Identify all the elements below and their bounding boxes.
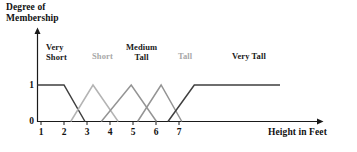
fuzzy-membership-chart: Degree of Membership: [0, 0, 357, 152]
series-label-tall-line-1: Tall: [178, 52, 192, 62]
series-very-tall: [168, 85, 280, 122]
series-short: [71, 85, 119, 122]
series-label-medium-tall-line-2: Tall: [126, 53, 157, 63]
x-tick-label-7: 7: [171, 127, 187, 137]
x-tick-label-6: 6: [148, 127, 164, 137]
x-tick-label-5: 5: [125, 127, 141, 137]
x-axis-title: Height in Feet: [268, 127, 327, 137]
y-tick-label-1: 1: [20, 80, 34, 90]
series-very-short: [38, 85, 86, 122]
series-label-short: Short: [92, 52, 113, 62]
series-label-very-tall: Very Tall: [232, 52, 266, 62]
x-tick-label-2: 2: [56, 127, 72, 137]
x-tick-label-4: 4: [102, 127, 118, 137]
x-tick-label-3: 3: [79, 127, 95, 137]
series-label-very-tall-line-1: Very Tall: [232, 52, 266, 62]
series-label-short-line-1: Short: [92, 52, 113, 62]
series-medium-tall: [101, 85, 156, 122]
series-label-tall: Tall: [178, 52, 192, 62]
series-label-very-short: Very Short: [46, 43, 67, 62]
x-tick-label-1: 1: [33, 127, 49, 137]
series-label-medium-tall: Medium Tall: [126, 43, 157, 62]
y-tick-label-0: 0: [20, 116, 34, 126]
series-label-very-short-line-2: Short: [46, 53, 67, 63]
